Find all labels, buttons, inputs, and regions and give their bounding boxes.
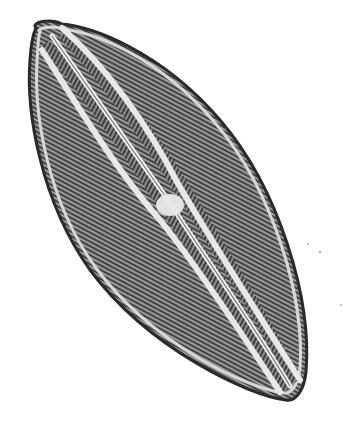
central-nodule: [156, 194, 184, 216]
debris: [307, 243, 342, 306]
diatom-illustration: [0, 0, 347, 434]
diatom-image: Elongated lanceolate diatom valve orient…: [0, 0, 347, 434]
